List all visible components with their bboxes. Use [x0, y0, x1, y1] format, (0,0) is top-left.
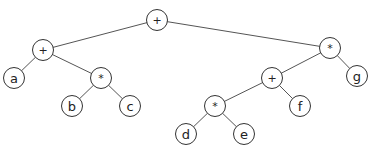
tree-edge — [43, 20, 157, 50]
leaf-node: e — [233, 123, 255, 145]
expression-tree-diagram: ++a*bc*g+f*de — [0, 0, 374, 153]
leaf-node: b — [61, 95, 83, 117]
operator-node: + — [32, 39, 54, 61]
tree-edge — [157, 20, 330, 48]
operator-node: * — [204, 95, 226, 117]
leaf-node: g — [346, 65, 368, 87]
leaf-node: f — [289, 95, 311, 117]
operator-node: + — [146, 9, 168, 31]
leaf-node: d — [175, 123, 197, 145]
leaf-node: a — [3, 67, 25, 89]
leaf-node: c — [119, 95, 141, 117]
operator-node: * — [90, 67, 112, 89]
operator-node: * — [319, 37, 341, 59]
operator-node: + — [261, 67, 283, 89]
